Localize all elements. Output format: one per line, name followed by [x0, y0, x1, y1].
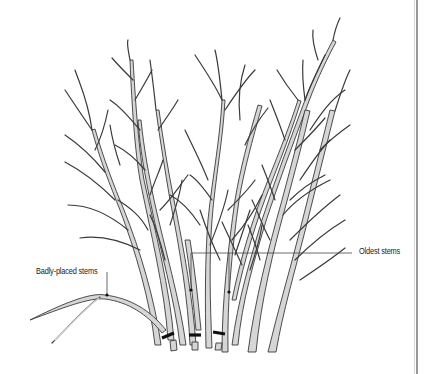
- border-line: [416, 0, 418, 374]
- cut-stubs: [170, 340, 222, 351]
- badly-placed-stems: [30, 295, 166, 343]
- cut-mark: [213, 332, 225, 334]
- badly-placed-stems-label: Badly-placed stems: [36, 266, 97, 276]
- border-line-inner: [414, 0, 415, 374]
- oldest-stems-label: Oldest stems: [359, 246, 400, 256]
- shrub-illustration: [0, 0, 427, 374]
